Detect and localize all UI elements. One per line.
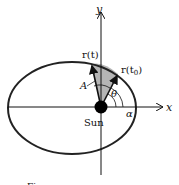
label-sun: Sun: [84, 117, 104, 128]
orbit-ellipse: [8, 62, 136, 154]
kepler-orbit-diagram: y x r(t) r(t0) A θ α Sun Figure: [0, 0, 179, 185]
label-r-t: r(t): [82, 49, 99, 60]
label-theta: θ: [111, 88, 117, 99]
x-axis-label: x: [166, 101, 173, 114]
label-r-t0: r(t0): [121, 64, 142, 77]
area-pointer: [87, 81, 95, 86]
sun-icon: [95, 101, 108, 114]
label-area-A: A: [79, 80, 87, 91]
figure-caption: Figure: [27, 182, 57, 185]
label-alpha: α: [126, 108, 133, 119]
y-axis-label: y: [95, 3, 103, 16]
